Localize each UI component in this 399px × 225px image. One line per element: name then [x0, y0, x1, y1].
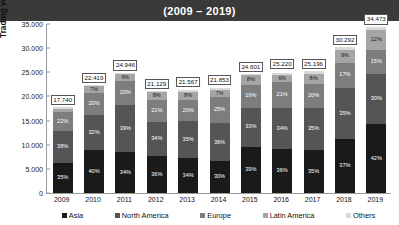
- bar-segment[interactable]: 34%: [147, 122, 167, 157]
- bar-segment[interactable]: 25%: [210, 97, 230, 123]
- bar-segment[interactable]: 20%: [178, 100, 198, 121]
- bar-column[interactable]: 1%6%20%39%34%: [115, 73, 135, 193]
- legend-item-asia[interactable]: Asia: [62, 211, 83, 220]
- bar-segment[interactable]: 7%: [210, 90, 230, 97]
- bar-segment[interactable]: 8%: [241, 75, 261, 85]
- bar-segment[interactable]: 22%: [53, 112, 73, 131]
- bar-segment[interactable]: 38%: [53, 131, 73, 163]
- plot-area: 05.00010.00015.00020.00025.00030.00035.0…: [46, 24, 391, 193]
- bar-series-group: 2%4%22%38%35%17.7401%7%20%32%40%22.4191%…: [47, 24, 391, 193]
- bar-segment[interactable]: 17%: [335, 63, 355, 88]
- bar-segment[interactable]: 34%: [272, 108, 292, 149]
- y-tick-label: 10.000: [22, 141, 43, 148]
- legend-item-europe[interactable]: Europe: [200, 211, 231, 220]
- bar-column[interactable]: 2%7%25%36%30%: [210, 87, 230, 193]
- bar-segment[interactable]: 30%: [210, 161, 230, 193]
- legend-swatch-icon: [115, 213, 120, 218]
- bar-segment[interactable]: 20%: [304, 84, 324, 108]
- bar-segment[interactable]: 15%: [366, 50, 386, 75]
- bar-total-label: 24.601: [239, 62, 263, 72]
- y-tick-label: 30.000: [22, 45, 43, 52]
- bar-segment[interactable]: 12%: [366, 30, 386, 50]
- y-tick-label: 0: [39, 190, 43, 197]
- x-tick-label: 2013: [171, 196, 202, 203]
- bar-segment[interactable]: 33%: [241, 108, 261, 147]
- y-tick-label: 25.000: [22, 69, 43, 76]
- x-tick-label: 2017: [297, 196, 328, 203]
- legend-label: North America: [122, 211, 169, 220]
- legend-item-north-america[interactable]: North America: [115, 211, 169, 220]
- bar-segment[interactable]: 8%: [147, 92, 167, 100]
- bar-segment[interactable]: 42%: [366, 124, 386, 193]
- y-tick-label: 15.000: [22, 117, 43, 124]
- bar-column[interactable]: 2%9%17%35%37%: [335, 47, 355, 193]
- bar-column[interactable]: 2%12%15%30%42%: [366, 27, 386, 193]
- bar-column[interactable]: 2%6%21%34%36%: [272, 71, 292, 193]
- bar-segment[interactable]: 20%: [115, 81, 135, 105]
- bar-segment[interactable]: 20%: [84, 93, 104, 115]
- legend-swatch-icon: [263, 213, 268, 218]
- bar-column[interactable]: 1%8%21%34%36%: [147, 91, 167, 193]
- x-tick-label: 2014: [203, 196, 234, 203]
- bar-segment[interactable]: 39%: [115, 105, 135, 152]
- bar-segment[interactable]: 39%: [241, 147, 261, 193]
- x-axis-line: [46, 193, 391, 194]
- bar-column[interactable]: 1%8%19%33%39%: [241, 74, 261, 193]
- bar-segment[interactable]: 6%: [272, 75, 292, 82]
- chart-title-bar: (2009 – 2019): [0, 0, 399, 21]
- bar-total-label: 24.946: [113, 60, 137, 70]
- bar-segment[interactable]: 35%: [53, 163, 73, 193]
- bar-segment[interactable]: 35%: [335, 88, 355, 139]
- y-tick-label: 20.000: [22, 93, 43, 100]
- bar-segment[interactable]: 37%: [335, 139, 355, 193]
- x-tick-label: 2018: [328, 196, 359, 203]
- x-tick-label: 2011: [109, 196, 140, 203]
- legend-swatch-icon: [62, 213, 67, 218]
- bar-column[interactable]: 2%8%20%35%34%: [178, 89, 198, 193]
- bar-segment[interactable]: 30%: [366, 74, 386, 123]
- x-tick-label: 2010: [77, 196, 108, 203]
- bar-segment[interactable]: 35%: [178, 121, 198, 157]
- bar-segment[interactable]: 21%: [272, 82, 292, 108]
- bar-segment[interactable]: 8%: [304, 74, 324, 84]
- y-tick-label: 35.000: [22, 21, 43, 28]
- bar-segment[interactable]: 6%: [115, 74, 135, 81]
- bar-segment[interactable]: 8%: [178, 92, 198, 100]
- legend-item-latin-america[interactable]: Latin America: [263, 211, 315, 220]
- legend-label: Others: [353, 211, 375, 220]
- chart-root: (2009 – 2019) Trading volume (million co…: [0, 0, 399, 225]
- chart-legend: AsiaNorth AmericaEuropeLatin AmericaOthe…: [46, 208, 391, 222]
- bar-segment[interactable]: 35%: [304, 108, 324, 151]
- bar-column[interactable]: 1%7%20%32%40%: [84, 85, 104, 193]
- legend-label: Europe: [207, 211, 231, 220]
- bar-segment[interactable]: 21%: [147, 100, 167, 121]
- x-tick-label: 2019: [360, 196, 391, 203]
- bar-total-label: 17.740: [51, 95, 75, 105]
- bar-total-label: 21.567: [176, 77, 200, 87]
- x-tick-label: 2012: [140, 196, 171, 203]
- bar-segment[interactable]: 34%: [178, 158, 198, 193]
- bar-segment[interactable]: 35%: [304, 150, 324, 193]
- legend-item-others[interactable]: Others: [346, 211, 375, 220]
- y-tick-label: 5.000: [25, 165, 43, 172]
- bar-segment[interactable]: 32%: [84, 115, 104, 150]
- page-title: (2009 – 2019): [163, 5, 235, 17]
- legend-swatch-icon: [200, 213, 205, 218]
- bar-total-label: 30.292: [333, 35, 357, 45]
- bar-segment[interactable]: 36%: [147, 156, 167, 193]
- bar-segment[interactable]: 9%: [335, 50, 355, 63]
- bar-segment[interactable]: 36%: [272, 149, 292, 193]
- bar-segment[interactable]: 7%: [84, 86, 104, 94]
- legend-label: Asia: [69, 211, 83, 220]
- bar-segment[interactable]: 34%: [115, 152, 135, 193]
- bar-column[interactable]: 2%8%20%35%35%: [304, 71, 324, 193]
- x-tick-label: 2009: [46, 196, 77, 203]
- y-axis-label: Trading volume (million contracts): [0, 0, 8, 46]
- bar-segment[interactable]: 36%: [210, 123, 230, 161]
- bar-total-label: 21.853: [208, 75, 232, 85]
- legend-label: Latin America: [270, 211, 315, 220]
- bar-column[interactable]: 2%4%22%38%35%: [53, 107, 73, 193]
- bar-segment[interactable]: 40%: [84, 150, 104, 193]
- bar-total-label: 21.129: [145, 79, 169, 89]
- bar-segment[interactable]: 19%: [241, 85, 261, 108]
